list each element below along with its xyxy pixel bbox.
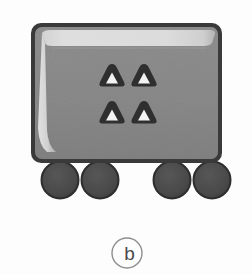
- wheel-2: [82, 162, 119, 199]
- caption-label: b: [124, 243, 135, 264]
- figure-panel: b: [0, 0, 252, 275]
- gloss-inner-edge: [52, 47, 206, 49]
- gloss-top-band: [42, 30, 215, 46]
- figure-caption: b: [112, 238, 142, 268]
- wheel-4: [194, 162, 231, 199]
- wheel-3: [154, 162, 191, 199]
- container-body: [31, 23, 222, 163]
- container-body-face: [35, 27, 218, 159]
- wheel-1: [42, 162, 79, 199]
- figure-illustration: b: [0, 0, 252, 275]
- wheel-set: [42, 162, 231, 199]
